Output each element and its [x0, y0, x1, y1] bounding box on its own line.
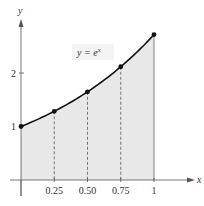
- y-tick-label: 2: [11, 68, 16, 79]
- data-point: [19, 124, 24, 129]
- x-tick-label: 0.25: [46, 185, 64, 196]
- y-axis-label: y: [17, 5, 23, 16]
- x-axis-label: x: [196, 174, 202, 185]
- y-axis-arrow-icon: [19, 19, 24, 27]
- data-point: [52, 109, 57, 114]
- x-ticks: 0.250.500.751: [21, 178, 157, 196]
- y-tick-label: 1: [11, 121, 16, 132]
- y-ticks: 12: [11, 68, 24, 133]
- data-point: [118, 64, 123, 69]
- x-axis-arrow-icon: [187, 178, 195, 183]
- data-point: [85, 89, 90, 94]
- x-tick-label: 0.50: [79, 185, 97, 196]
- chart: 0.250.500.751 12 x y y = ex: [0, 0, 204, 206]
- data-point: [152, 32, 157, 37]
- x-tick-label: 0.75: [112, 185, 130, 196]
- x-tick-label: 1: [152, 185, 157, 196]
